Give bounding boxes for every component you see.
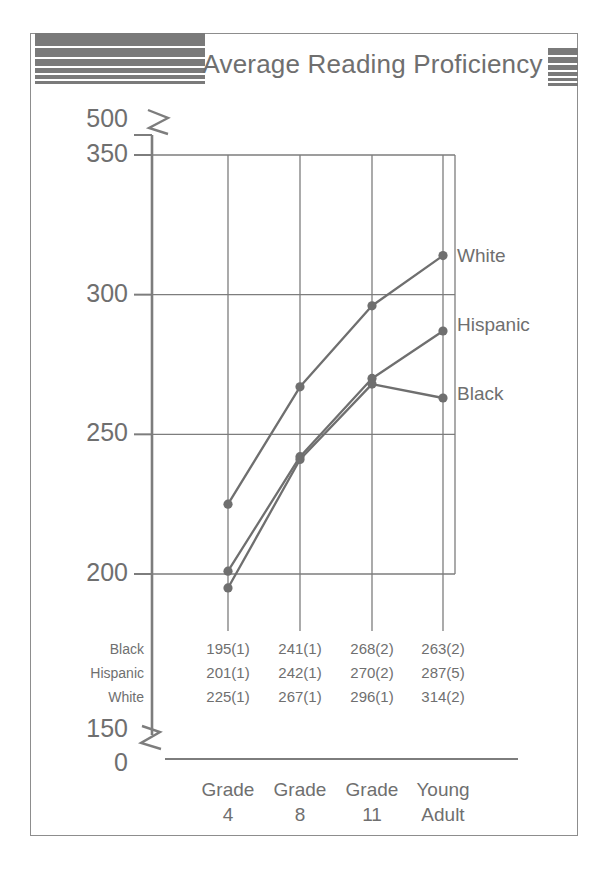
- chart-plot-area: [0, 0, 607, 876]
- y-axis-break-bottom: [141, 726, 161, 749]
- data-point-white: [367, 301, 376, 310]
- data-point-black: [223, 583, 232, 592]
- data-point-black: [438, 393, 447, 402]
- data-point-black: [367, 379, 376, 388]
- data-point-white: [295, 382, 304, 391]
- y-axis-break-top: [148, 110, 168, 134]
- data-point-black: [295, 455, 304, 464]
- data-point-hispanic: [438, 326, 447, 335]
- series-line-black: [228, 384, 443, 588]
- data-point-white: [223, 500, 232, 509]
- data-point-hispanic: [223, 567, 232, 576]
- data-point-white: [438, 251, 447, 260]
- series-line-white: [228, 256, 443, 505]
